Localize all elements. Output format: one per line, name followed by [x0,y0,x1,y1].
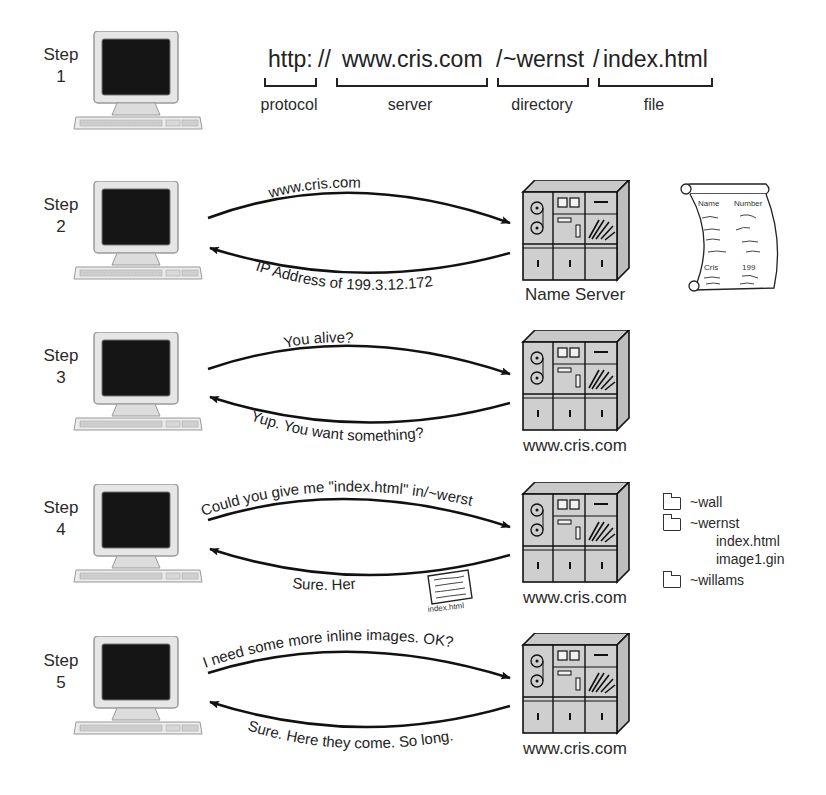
tree-item-index-html: index.html [716,533,780,549]
number-column-header: Number [734,199,763,208]
step-3-response-text: Yup. You want something? [249,407,425,444]
folder-icon [663,575,681,588]
document-icon: index.html [422,568,480,614]
web-server-caption-5: www.cris.com [505,739,645,759]
folder-icon [663,518,681,531]
step-2-response-text: IP Address of 199.3.12.172 [254,257,434,293]
name-column-header: Name [698,199,720,208]
client-computer-3 [72,332,206,432]
web-server-icon-4 [515,482,635,586]
web-server-icon-3 [515,330,635,434]
tree-item-wall: ~wall [690,494,722,510]
tree-item-wernst: ~wernst [690,515,739,531]
step-2-request-text: www.cris.com [266,173,361,201]
folder-icon [663,497,681,510]
client-computer-4 [72,484,206,584]
name-server-caption: Name Server [505,285,645,305]
web-server-caption-4: www.cris.com [505,588,645,608]
client-computer-5 [72,636,206,736]
web-server-caption-3: www.cris.com [505,436,645,456]
client-computer-2 [72,181,206,281]
web-server-icon-5 [515,633,635,737]
name-table-scroll-icon: Name Number Cris 199 [676,180,788,298]
name-server-icon [515,180,635,284]
number-entry: 199 [742,263,756,272]
step-5-response-text: Sure. Here they come. So long. [246,717,454,752]
tree-item-willams: ~willams [690,572,744,588]
name-entry: Cris [704,263,718,272]
tree-item-image1: image1.gin [716,551,785,567]
